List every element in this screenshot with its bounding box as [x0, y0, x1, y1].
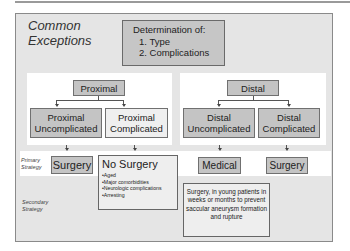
strategy-line: Secondary — [22, 199, 48, 206]
no-surgery-heading: No Surgery — [102, 158, 177, 171]
determination-item-complications: 2. Complications — [133, 47, 224, 59]
proximal-label: Proximal — [81, 83, 118, 94]
arrow-down-icon — [55, 104, 59, 107]
node-line: Proximal — [118, 112, 155, 123]
determination-box: Determination of: 1. Type 2. Complicatio… — [122, 20, 225, 66]
criteria-item: Major comorbidities — [102, 179, 177, 186]
node-line: Proximal — [48, 112, 85, 123]
surgery-outcome-proximal: Surgery — [51, 156, 93, 174]
no-surgery-criteria-list: Aged Major comorbidities Neurologic comp… — [102, 172, 177, 198]
node-line: Uncomplicated — [188, 123, 251, 134]
outcome-label: Surgery — [269, 160, 304, 171]
strategy-line: Primary — [21, 157, 41, 164]
secondary-strategy-note: Surgery, in young patients in weeks or m… — [183, 183, 270, 237]
node-line: Complicated — [263, 123, 316, 134]
node-line: Uncomplicated — [35, 123, 98, 134]
title-line-1: Common — [28, 18, 92, 33]
top-rule — [15, 1, 350, 3]
distal-label: Distal — [241, 83, 265, 94]
node-line: Complicated — [110, 123, 163, 134]
strategy-line: Strategy — [21, 164, 41, 171]
note-text: Surgery, in young patients in weeks or m… — [186, 188, 267, 220]
connector — [56, 100, 123, 101]
proximal-uncomplicated-node: Proximal Uncomplicated — [30, 108, 102, 138]
diagram-title: Common Exceptions — [28, 18, 92, 48]
criteria-item: Arresting — [102, 192, 177, 199]
criteria-item: Neurologic complications — [102, 185, 177, 192]
outcome-label: Surgery — [53, 159, 92, 171]
node-line: Distal — [277, 112, 301, 123]
primary-strategy-label: Primary Strategy — [21, 157, 41, 170]
arrow-down-icon — [122, 104, 126, 107]
no-surgery-box: No Surgery Aged Major comorbidities Neur… — [98, 155, 178, 210]
connector — [218, 100, 289, 101]
distal-node: Distal — [227, 80, 279, 96]
criteria-item: Aged — [102, 172, 177, 179]
proximal-node: Proximal — [73, 80, 125, 96]
arrow-down-icon — [217, 104, 221, 107]
determination-item-type: 1. Type — [133, 36, 224, 48]
distal-complicated-node: Distal Complicated — [258, 108, 320, 138]
secondary-strategy-label: Secondary Strategy — [22, 199, 48, 212]
title-line-2: Exceptions — [28, 33, 92, 48]
determination-heading: Determination of: — [133, 24, 224, 36]
distal-uncomplicated-node: Distal Uncomplicated — [183, 108, 255, 138]
node-line: Distal — [207, 112, 231, 123]
surgery-outcome-distal: Surgery — [266, 157, 308, 174]
outcome-label: Medical — [202, 160, 236, 171]
medical-outcome-distal: Medical — [198, 157, 241, 174]
strategy-line: Strategy — [22, 206, 48, 213]
proximal-complicated-node: Proximal Complicated — [105, 108, 168, 138]
arrow-down-icon — [287, 104, 291, 107]
